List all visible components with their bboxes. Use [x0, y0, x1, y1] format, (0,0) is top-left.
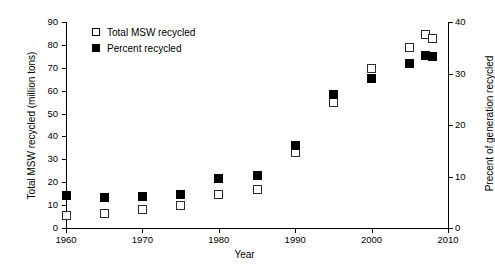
y-axis-left-tick: [62, 91, 66, 92]
x-axis-tick: [219, 229, 220, 233]
data-point-percent: [138, 192, 147, 201]
y-axis-right-tick: [449, 125, 453, 126]
x-axis-line: [66, 228, 449, 229]
data-point-percent: [176, 190, 185, 199]
data-point-total: [176, 201, 185, 210]
y-axis-left-tick: [62, 22, 66, 23]
data-point-percent: [253, 171, 262, 180]
x-axis-tick: [372, 229, 373, 233]
y-axis-right-tick: [449, 74, 453, 75]
y-axis-left-title: Total MSW recycled (million tons): [26, 16, 37, 236]
x-axis-tick-label: 1990: [275, 235, 315, 245]
y-axis-left-tick: [62, 159, 66, 160]
data-point-percent: [291, 141, 300, 150]
data-point-total: [329, 98, 338, 107]
data-point-percent: [428, 52, 437, 61]
y-axis-right-tick: [449, 22, 453, 23]
filled-square-icon: [92, 44, 100, 52]
data-point-percent: [100, 193, 109, 202]
y-axis-left-tick: [62, 182, 66, 183]
data-point-percent: [329, 90, 338, 99]
y-axis-right-tick: [449, 177, 453, 178]
x-axis-tick-label: 1960: [46, 235, 86, 245]
y-axis-right-tick-label: 0: [455, 223, 481, 233]
y-axis-right-tick-label: 40: [455, 17, 481, 27]
y-axis-right-tick: [449, 228, 453, 229]
data-point-total: [367, 64, 376, 73]
data-point-total: [253, 185, 262, 194]
x-axis-title: Year: [0, 249, 489, 260]
data-point-total: [405, 43, 414, 52]
y-axis-left-tick: [62, 114, 66, 115]
y-axis-right-tick-label: 30: [455, 69, 481, 79]
data-point-total: [100, 209, 109, 218]
legend-item: Percent recycled: [92, 40, 195, 56]
y-axis-left-tick: [62, 136, 66, 137]
x-axis-tick: [448, 229, 449, 233]
chart-legend: Total MSW recycled Percent recycled: [92, 24, 195, 56]
y-axis-right-tick-label: 20: [455, 120, 481, 130]
y-axis-left-tick: [62, 68, 66, 69]
legend-label: Total MSW recycled: [107, 27, 195, 38]
data-point-percent: [214, 174, 223, 183]
x-axis-tick: [295, 229, 296, 233]
data-point-percent: [62, 191, 71, 200]
data-point-total: [428, 34, 437, 43]
y-axis-left-tick: [62, 205, 66, 206]
y-axis-left-tick: [62, 45, 66, 46]
data-point-total: [214, 190, 223, 199]
data-point-total: [62, 211, 71, 220]
x-axis-tick: [142, 229, 143, 233]
x-axis-tick-label: 1980: [199, 235, 239, 245]
x-axis-tick-label: 2010: [428, 235, 468, 245]
legend-item: Total MSW recycled: [92, 24, 195, 40]
x-axis-tick-label: 2000: [352, 235, 392, 245]
data-point-percent: [405, 59, 414, 68]
open-square-icon: [92, 28, 100, 36]
legend-label: Percent recycled: [107, 43, 181, 54]
data-point-percent: [367, 74, 376, 83]
y-axis-right-tick-label: 10: [455, 172, 481, 182]
y-axis-right-title: Precent of generation recycled: [484, 19, 495, 229]
data-point-total: [138, 205, 147, 214]
x-axis-tick: [66, 229, 67, 233]
x-axis-tick-label: 1970: [122, 235, 162, 245]
